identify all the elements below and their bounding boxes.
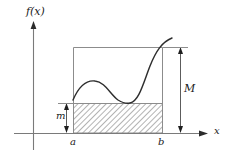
function-bounds-figure: f(x) x a b M m [0, 0, 229, 159]
y-axis-label: f(x) [26, 6, 45, 17]
y-axis-arrowhead [31, 21, 37, 29]
upper-bound-measure-arrowhead-bottom [178, 126, 183, 133]
right-endpoint-label: b [158, 137, 164, 147]
lower-bound-rectangle [74, 104, 163, 134]
lower-bound-measure-arrowhead-bottom [64, 126, 69, 133]
upper-bound-label: M [184, 83, 195, 94]
x-axis-label: x [214, 126, 220, 136]
x-axis-arrowhead [199, 131, 208, 137]
lower-bound-measure-arrowhead-top [64, 103, 69, 110]
left-endpoint-label: a [70, 137, 76, 147]
figure-canvas [0, 0, 229, 159]
upper-bound-measure-arrowhead-top [178, 47, 183, 54]
lower-bound-label: m [56, 111, 65, 121]
